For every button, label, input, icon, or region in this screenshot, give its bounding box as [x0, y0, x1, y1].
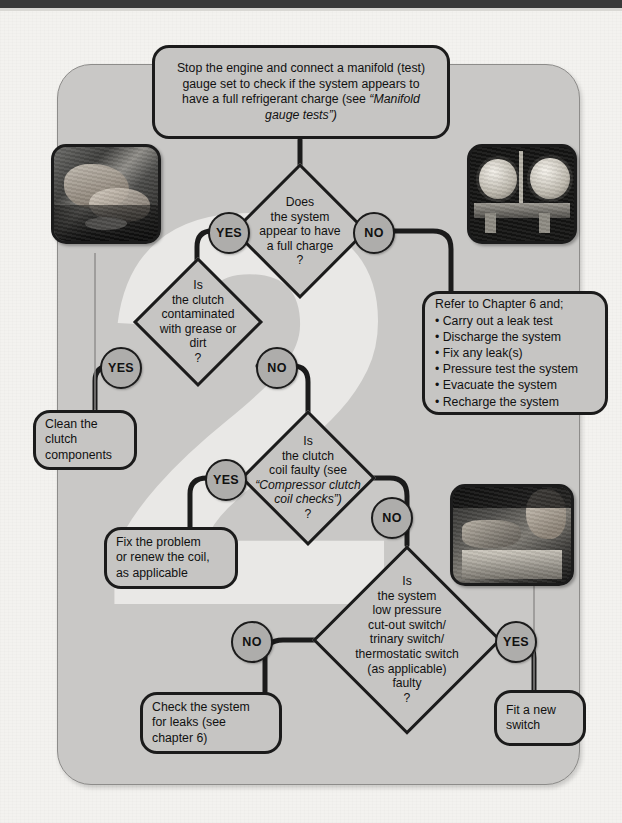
chapter6-item: • Fix any leak(s) — [435, 345, 523, 361]
badge-label: NO — [382, 511, 401, 525]
page-background: 2 — [0, 0, 622, 823]
badge-label: NO — [364, 226, 383, 240]
chapter6-item: • Discharge the system — [435, 329, 561, 345]
fix-line-2: or renew the coil, — [116, 550, 210, 566]
q4-line-6: thermostatic switch — [312, 647, 502, 662]
start-line-3: have a full refrigerant charge (see — [182, 92, 369, 106]
leaks-line-3: chapter 6) — [152, 731, 207, 747]
q4-line-8: faulty — [312, 676, 502, 691]
badge-q2-yes[interactable]: YES — [100, 347, 142, 389]
clean-line-3: components — [45, 448, 112, 464]
leaks-line-2: for leaks (see — [152, 715, 226, 731]
check-leaks-box[interactable]: Check the system for leaks (see chapter … — [140, 692, 282, 754]
q2-line-3: contaminated — [124, 307, 272, 322]
q3-tail: ? — [232, 507, 384, 522]
q2-line-1: Is — [124, 278, 272, 293]
q4-line-9: ? — [312, 691, 502, 706]
chapter6-item: • Pressure test the system — [435, 361, 578, 377]
badge-q3-yes[interactable]: YES — [205, 459, 247, 501]
q4-line-3: low pressure — [312, 604, 502, 619]
badge-q4-yes[interactable]: YES — [495, 621, 537, 663]
chapter6-item: • Evacuate the system — [435, 377, 557, 393]
q4-line-1: Is — [312, 574, 502, 589]
q2-line-5: dirt — [124, 337, 272, 352]
badge-label: YES — [503, 635, 529, 649]
q3-italic-1: “Compressor clutch — [232, 478, 384, 493]
q4-line-7: (as applicable) — [312, 662, 502, 677]
badge-label: YES — [213, 473, 239, 487]
q3-line-2: the clutch — [232, 449, 384, 464]
badge-q3-no[interactable]: NO — [371, 497, 413, 539]
q2-line-2: the clutch — [124, 293, 272, 308]
start-box[interactable]: Stop the engine and connect a manifold (… — [152, 45, 450, 139]
chapter6-item: • Carry out a leak test — [435, 313, 553, 329]
badge-q1-yes[interactable]: YES — [208, 212, 250, 254]
photo-technician-engine — [450, 484, 574, 586]
start-italic-ref-b: gauge tests”) — [265, 108, 337, 124]
start-line-1: Stop the engine and connect a manifold (… — [177, 61, 425, 77]
switch-line-1: Fit a new — [506, 703, 556, 719]
fix-line-3: as applicable — [116, 566, 188, 582]
clean-line-1: Clean the — [45, 417, 98, 433]
decision-switch-faulty[interactable]: Is the system low pressure cut-out switc… — [340, 573, 474, 707]
q3-italic-2: coil checks”) — [232, 493, 384, 508]
leaks-line-1: Check the system — [152, 700, 250, 716]
badge-label: NO — [267, 361, 286, 375]
start-line-2: gauge set to check if the system appears… — [182, 77, 419, 93]
q1-line-5: ? — [224, 253, 376, 268]
fix-line-1: Fix the problem — [116, 535, 201, 551]
q1-line-1: Does — [224, 195, 376, 210]
photo-hands-engine — [51, 144, 161, 244]
q4-line-4: cut-out switch/ — [312, 618, 502, 633]
clean-line-2: clutch — [45, 432, 77, 448]
badge-q2-no[interactable]: NO — [256, 347, 298, 389]
badge-label: NO — [242, 635, 261, 649]
chapter6-heading: Refer to Chapter 6 and; — [435, 296, 564, 312]
chapter6-item: • Recharge the system — [435, 394, 559, 410]
q2-line-4: with grease or — [124, 322, 272, 337]
fix-coil-box[interactable]: Fix the problem or renew the coil, as ap… — [104, 527, 238, 589]
start-italic-ref-a: “Manifold — [369, 92, 420, 106]
q2-line-6: ? — [124, 351, 272, 366]
decision-clutch-coil-faulty[interactable]: Is the clutch coil faulty (see “Compress… — [260, 430, 356, 526]
decision-full-charge[interactable]: Does the system appear to have a full ch… — [252, 183, 348, 279]
badge-q4-no[interactable]: NO — [231, 621, 273, 663]
badge-label: YES — [108, 361, 134, 375]
photo-manifold-gauges — [467, 144, 577, 244]
clean-clutch-box[interactable]: Clean the clutch components — [33, 410, 137, 470]
switch-line-2: switch — [506, 718, 540, 734]
q3-line-3: coil faulty (see — [232, 463, 384, 478]
badge-q1-no[interactable]: NO — [353, 212, 395, 254]
q4-line-5: trinary switch/ — [312, 633, 502, 648]
chapter6-actions-box[interactable]: Refer to Chapter 6 and; • Carry out a le… — [422, 291, 608, 415]
q3-line-1: Is — [232, 434, 384, 449]
badge-label: YES — [216, 226, 242, 240]
fit-new-switch-box[interactable]: Fit a new switch — [494, 690, 586, 746]
decision-clutch-contaminated[interactable]: Is the clutch contaminated with grease o… — [152, 276, 244, 368]
q4-line-2: the system — [312, 589, 502, 604]
